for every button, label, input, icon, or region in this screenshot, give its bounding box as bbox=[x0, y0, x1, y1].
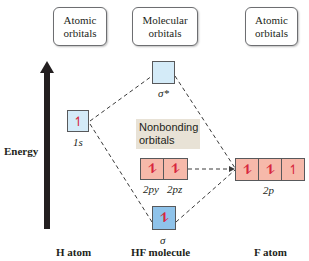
nonbonding-label: Nonbonding orbitals bbox=[139, 121, 198, 146]
electron-pair-icon: ⥮ bbox=[148, 161, 157, 177]
electron-up-icon: ↿ bbox=[288, 162, 299, 177]
electron-up-icon: ↿ bbox=[73, 114, 84, 129]
2pz-label: 2pz bbox=[167, 183, 182, 195]
h-1s-label: 1s bbox=[73, 136, 83, 148]
energy-axis-label: Energy bbox=[4, 145, 38, 157]
footer-hf-molecule: HF molecule bbox=[131, 246, 190, 258]
electron-pair-icon: ⥮ bbox=[160, 210, 169, 226]
sigma-orbital-box: ⥮ bbox=[152, 206, 176, 230]
footer-h-atom: H atom bbox=[56, 246, 91, 258]
sigma-star-orbital-box bbox=[152, 61, 175, 84]
footer-f-atom: F atom bbox=[254, 246, 287, 258]
sigma-label: σ bbox=[160, 234, 165, 246]
f-2p-box-3: ↿ bbox=[281, 158, 305, 181]
nonbonding-label-box: Nonbonding orbitals bbox=[136, 119, 200, 149]
sigma-star-label: σ* bbox=[158, 87, 169, 99]
energy-arrow-shaft bbox=[44, 72, 50, 229]
nonbonding-2py-box: ⥮ bbox=[140, 158, 164, 180]
nonbonding-2pz-box: ⥮ bbox=[163, 158, 188, 180]
2py-label: 2py bbox=[143, 183, 159, 195]
h-1s-orbital-box: ↿ bbox=[67, 110, 89, 132]
f-2p-box-2: ⥮ bbox=[258, 158, 282, 181]
energy-arrow-head bbox=[40, 61, 54, 73]
electron-pair-icon: ⥮ bbox=[266, 162, 275, 178]
f-2p-label: 2p bbox=[263, 184, 274, 196]
electron-pair-icon: ⥮ bbox=[171, 161, 180, 177]
f-2p-box-1: ⥮ bbox=[235, 158, 259, 181]
electron-pair-icon: ⥮ bbox=[243, 162, 252, 178]
